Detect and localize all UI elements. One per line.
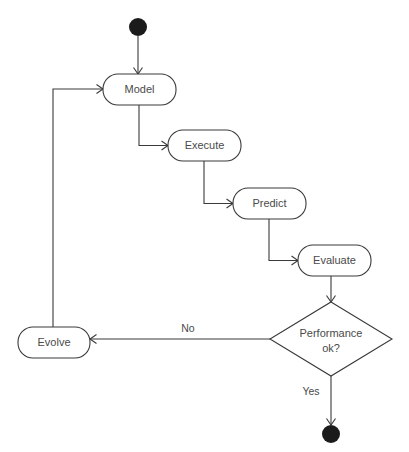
node-evolve[interactable]: Evolve	[18, 327, 90, 358]
node-predict-label: Predict	[252, 197, 286, 209]
node-evaluate-label: Evaluate	[313, 254, 356, 266]
node-model-label: Model	[125, 83, 155, 95]
edge-label-no: No	[181, 322, 195, 334]
edge-line	[204, 161, 233, 204]
edge-label-yes: Yes	[302, 385, 319, 397]
edge-evaluate-to-decision	[327, 276, 336, 302]
node-decision-label-line1: Performance	[300, 327, 363, 339]
end-node-circle-icon[interactable]	[322, 425, 340, 443]
edge-line	[139, 105, 168, 146]
node-predict[interactable]: Predict	[233, 188, 306, 219]
node-evaluate[interactable]: Evaluate	[298, 245, 371, 276]
edge-line	[269, 219, 298, 261]
node-model[interactable]: Model	[103, 74, 176, 105]
node-decision-performance[interactable]: Performance ok?	[270, 302, 392, 376]
diagram-canvas: . , . . . . . No	[0, 0, 409, 452]
edge-evolve-to-model	[53, 85, 103, 328]
activity-diagram: No Yes Model Execute Predict	[0, 0, 409, 452]
node-execute[interactable]: Execute	[168, 130, 241, 161]
edge-start-to-model	[134, 36, 143, 74]
edge-execute-to-predict	[204, 161, 233, 208]
edge-model-to-execute	[139, 105, 168, 150]
node-end[interactable]	[322, 425, 340, 443]
node-decision-label-line2: ok?	[322, 342, 340, 354]
node-execute-label: Execute	[185, 139, 225, 151]
edge-line	[53, 89, 103, 327]
edge-decision-to-evolve-no: No	[90, 322, 270, 344]
node-decision-shape[interactable]	[270, 302, 392, 376]
edge-decision-to-end-yes: Yes	[302, 376, 335, 425]
edge-predict-to-evaluate	[269, 219, 298, 265]
start-node-circle-icon[interactable]	[129, 18, 147, 36]
node-start[interactable]	[129, 18, 147, 36]
node-evolve-label: Evolve	[37, 336, 70, 348]
